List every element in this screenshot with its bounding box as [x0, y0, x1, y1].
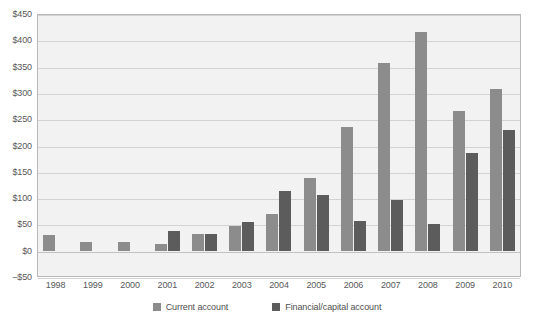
bar: [279, 191, 291, 250]
y-axis-tick-label: $400: [12, 36, 32, 45]
y-axis-tick-label: $250: [12, 115, 32, 124]
y-axis-tick-label: $200: [12, 141, 32, 150]
bar-group: [37, 14, 74, 277]
y-axis-tick-label: $50: [17, 220, 32, 229]
bar: [503, 130, 515, 251]
y-axis-tick-label: $150: [12, 167, 32, 176]
bar-group: [149, 14, 186, 277]
bar: [192, 234, 204, 251]
legend-label: Current account: [166, 302, 229, 312]
x-axis-tick-label: 2003: [232, 279, 252, 291]
x-axis-tick-label: 2001: [157, 279, 177, 291]
bar-group: [186, 14, 223, 277]
x-axis-tick-label: 2005: [306, 279, 326, 291]
bar-group: [74, 14, 111, 277]
bar: [317, 195, 329, 250]
legend-item[interactable]: Financial/capital account: [272, 300, 381, 314]
x-axis-tick-label: 2008: [418, 279, 438, 291]
y-axis-tick-label: $300: [12, 88, 32, 97]
bar: [118, 242, 130, 250]
bar: [466, 153, 478, 250]
bar-group: [372, 14, 409, 277]
bar: [378, 63, 390, 251]
bar: [453, 111, 465, 250]
bar: [428, 224, 440, 250]
x-axis: 1998199920002001200220032004200520062007…: [37, 279, 521, 295]
x-axis-tick-label: 1999: [83, 279, 103, 291]
bars-layer: [37, 14, 521, 277]
bar: [168, 231, 180, 250]
bar-group: [335, 14, 372, 277]
bar: [341, 127, 353, 251]
bar-group: [484, 14, 521, 277]
bar: [43, 235, 55, 251]
bar: [266, 214, 278, 251]
bar-group: [260, 14, 297, 277]
bar: [304, 178, 316, 251]
legend-swatch-icon: [272, 303, 280, 311]
x-axis-tick-label: 2000: [120, 279, 140, 291]
x-axis-tick-label: 2006: [344, 279, 364, 291]
bar: [155, 244, 167, 250]
bar: [415, 32, 427, 250]
x-axis-tick-label: 2007: [381, 279, 401, 291]
bar-group: [447, 14, 484, 277]
bar-group: [111, 14, 148, 277]
bar-group: [298, 14, 335, 277]
y-axis: –$50$0$50$100$150$200$250$300$350$400$45…: [0, 0, 37, 321]
y-axis-tick-label: $450: [12, 10, 32, 19]
x-axis-tick-label: 2004: [269, 279, 289, 291]
bar: [391, 200, 403, 251]
x-axis-tick-label: 1998: [46, 279, 66, 291]
bar-group: [409, 14, 446, 277]
bar: [490, 89, 502, 251]
bar-chart-figure: –$50$0$50$100$150$200$250$300$350$400$45…: [0, 0, 534, 321]
chart-legend: Current accountFinancial/capital account: [0, 300, 534, 314]
legend-item[interactable]: Current account: [153, 300, 229, 314]
y-axis-tick-label: $100: [12, 194, 32, 203]
bar: [205, 234, 217, 250]
bar: [354, 221, 366, 251]
bar-group: [223, 14, 260, 277]
y-axis-tick-label: $350: [12, 62, 32, 71]
legend-label: Financial/capital account: [285, 302, 381, 312]
bar: [242, 222, 254, 251]
y-axis-tick-label: –$50: [12, 273, 32, 282]
x-axis-tick-label: 2009: [455, 279, 475, 291]
y-axis-tick-label: $0: [22, 246, 32, 255]
legend-swatch-icon: [153, 303, 161, 311]
x-axis-tick-label: 2002: [195, 279, 215, 291]
bar: [80, 242, 92, 251]
bar: [229, 226, 241, 251]
x-axis-tick-label: 2010: [493, 279, 513, 291]
